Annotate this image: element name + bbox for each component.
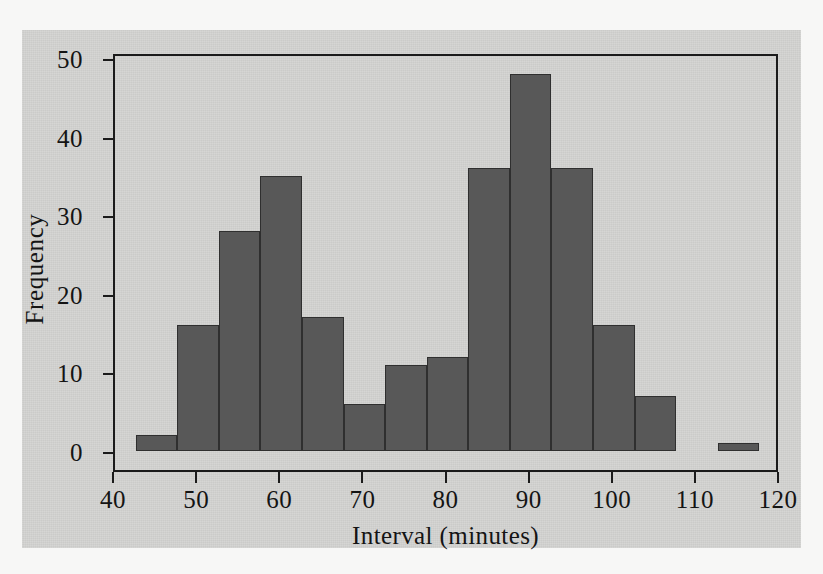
histogram-bar	[302, 317, 344, 451]
x-tick-label: 50	[156, 487, 236, 512]
histogram-bar	[593, 325, 635, 451]
x-tick-label: 60	[239, 487, 319, 512]
x-tick-mark	[694, 472, 696, 483]
histogram-bar	[136, 435, 178, 451]
x-axis-title: Interval (minutes)	[113, 522, 778, 550]
histogram-bar	[718, 443, 760, 451]
histogram-bar	[635, 396, 677, 451]
histogram-bars	[115, 56, 776, 470]
x-tick-mark	[361, 472, 363, 483]
x-tick-label: 110	[655, 487, 735, 512]
figure-root: Frequency 01020304050 405060708090100110…	[0, 0, 823, 574]
x-tick-mark	[445, 472, 447, 483]
x-tick-label: 40	[73, 487, 153, 512]
x-tick-mark	[777, 472, 779, 483]
histogram-bar	[468, 168, 510, 451]
histogram-bar	[551, 168, 593, 451]
x-tick-label: 90	[489, 487, 569, 512]
histogram-bar	[510, 74, 552, 451]
x-tick-mark	[611, 472, 613, 483]
histogram-bar	[344, 404, 386, 451]
x-tick-label: 80	[406, 487, 486, 512]
plot-frame	[113, 54, 778, 472]
x-tick-mark	[112, 472, 114, 483]
histogram-bar	[260, 176, 302, 451]
x-tick-label: 120	[738, 487, 818, 512]
x-tick-mark	[195, 472, 197, 483]
histogram-bar	[385, 365, 427, 451]
x-tick-label: 70	[322, 487, 402, 512]
x-tick-mark	[278, 472, 280, 483]
histogram-bar	[427, 357, 469, 451]
x-tick-mark	[528, 472, 530, 483]
x-tick-label: 100	[572, 487, 652, 512]
histogram-bar	[177, 325, 219, 451]
histogram-bar	[219, 231, 261, 451]
